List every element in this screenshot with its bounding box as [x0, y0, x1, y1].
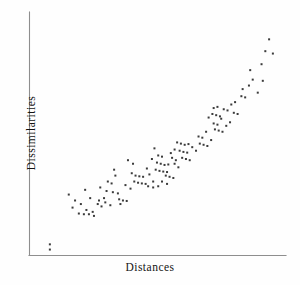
data-point: [156, 162, 158, 164]
data-point: [157, 154, 159, 156]
data-point: [223, 108, 225, 110]
data-point: [98, 199, 100, 201]
data-point: [137, 182, 139, 184]
data-point: [164, 164, 166, 166]
data-point: [85, 209, 87, 211]
data-point: [215, 114, 217, 116]
data-point: [272, 53, 274, 55]
data-point: [240, 95, 242, 97]
data-point: [171, 157, 173, 159]
data-point: [210, 139, 212, 141]
data-point: [133, 181, 135, 183]
data-point: [174, 163, 176, 165]
data-point: [131, 172, 133, 174]
data-point: [119, 203, 121, 205]
data-point: [152, 186, 154, 188]
data-point: [135, 175, 137, 177]
data-point: [186, 152, 188, 154]
data-point: [177, 166, 179, 168]
data-point: [257, 92, 259, 94]
data-point: [205, 131, 207, 133]
shepard-diagram-figure: Distances Dissimilarities: [0, 0, 300, 285]
data-point: [213, 122, 215, 124]
data-point: [165, 175, 167, 177]
data-point: [113, 169, 115, 171]
x-axis-label: Distances: [0, 261, 300, 273]
data-point: [132, 163, 134, 165]
data-point: [49, 243, 51, 245]
data-point: [166, 183, 168, 185]
data-point: [89, 197, 91, 199]
data-point: [174, 149, 176, 151]
data-point: [216, 124, 218, 126]
data-point: [221, 131, 223, 133]
data-point: [107, 181, 109, 183]
data-point: [169, 176, 171, 178]
data-point: [162, 171, 164, 173]
data-point: [101, 205, 103, 207]
data-point: [234, 101, 236, 103]
data-point: [167, 163, 169, 165]
data-point: [166, 171, 168, 173]
data-point: [146, 168, 148, 170]
data-point: [114, 175, 116, 177]
data-point: [268, 38, 270, 40]
data-point: [122, 199, 124, 201]
data-point: [227, 109, 229, 111]
data-point: [172, 177, 174, 179]
data-point: [182, 151, 184, 153]
data-point: [138, 175, 140, 177]
data-point: [104, 201, 106, 203]
data-point: [124, 184, 126, 186]
data-point: [141, 182, 143, 184]
data-point: [220, 118, 222, 120]
data-points-group: [49, 38, 274, 250]
data-point: [264, 50, 266, 52]
data-point: [145, 183, 147, 185]
data-point: [103, 197, 105, 199]
data-point: [176, 141, 178, 143]
data-point: [118, 198, 120, 200]
data-point: [206, 145, 208, 147]
data-point: [157, 185, 159, 187]
data-point: [88, 213, 90, 215]
data-point: [195, 150, 197, 152]
data-point: [261, 63, 263, 65]
data-point: [153, 147, 155, 149]
data-point: [158, 170, 160, 172]
data-point: [180, 143, 182, 145]
data-point: [49, 249, 51, 251]
data-point: [117, 192, 119, 194]
data-point: [214, 128, 216, 130]
data-point: [109, 204, 111, 206]
data-point: [184, 144, 186, 146]
data-point: [252, 79, 254, 81]
data-point: [97, 203, 99, 205]
data-point: [189, 159, 191, 161]
data-point: [84, 189, 86, 191]
data-point: [211, 113, 213, 115]
data-point: [233, 112, 235, 114]
data-point: [170, 152, 172, 154]
scatter-plot-canvas: [0, 0, 300, 285]
data-point: [92, 211, 94, 213]
data-point: [225, 125, 227, 127]
data-point: [229, 121, 231, 123]
data-point: [93, 215, 95, 217]
data-point: [130, 188, 132, 190]
data-point: [248, 85, 250, 87]
data-point: [175, 159, 177, 161]
data-point: [112, 191, 114, 193]
data-point: [99, 186, 101, 188]
data-point: [262, 80, 264, 82]
data-point: [80, 203, 82, 205]
data-point: [230, 104, 232, 106]
data-point: [242, 88, 244, 90]
data-point: [187, 143, 189, 145]
data-point: [68, 194, 70, 196]
data-point: [198, 136, 200, 138]
data-point: [148, 173, 150, 175]
data-point: [185, 158, 187, 160]
data-point: [161, 181, 163, 183]
data-point: [142, 176, 144, 178]
